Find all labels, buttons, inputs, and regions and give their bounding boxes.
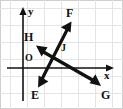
point-label-g: G: [101, 89, 110, 101]
y-axis-label: y: [28, 6, 34, 17]
coordinate-plane-figure: y x O H F J E G: [0, 0, 123, 109]
origin-label: O: [25, 53, 33, 63]
point-label-e: E: [31, 89, 39, 101]
x-axis-label: x: [104, 70, 110, 81]
point-label-j: J: [61, 43, 66, 53]
point-label-h: H: [24, 31, 33, 43]
point-label-f: F: [66, 7, 73, 19]
